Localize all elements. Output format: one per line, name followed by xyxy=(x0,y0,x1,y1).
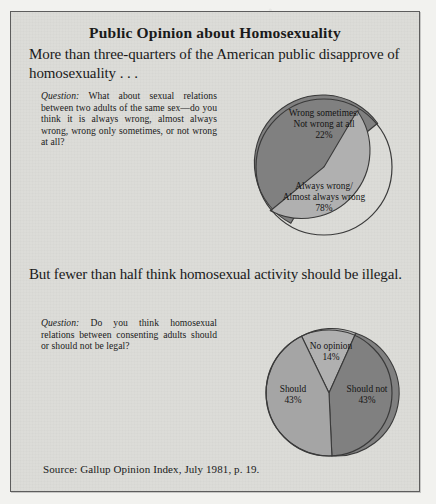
figure-inner: Public Opinion about Homosexuality More … xyxy=(11,12,419,491)
pie-label-pct: 22% xyxy=(257,130,391,141)
pie-label-no-opinion: No opinion 14% xyxy=(294,341,368,363)
lede-middle: But fewer than half think homosexual act… xyxy=(29,265,403,284)
pie-label-line2: Not wrong at all xyxy=(257,119,391,130)
source-line: Source: Gallup Opinion Index, July 1981,… xyxy=(43,463,259,475)
pie-label-line1: Wrong sometimes/ xyxy=(257,108,391,119)
pie-label-line1: Should xyxy=(263,384,323,395)
figure-frame: Public Opinion about Homosexuality More … xyxy=(10,11,420,492)
lede-top: More than three-quarters of the American… xyxy=(29,45,405,83)
figure-title: Public Opinion about Homosexuality xyxy=(11,24,419,42)
question-label-top: Question: xyxy=(41,90,79,101)
pie-label-line2: Almost always wrong xyxy=(254,192,394,203)
question-label-bottom: Question: xyxy=(41,317,79,328)
pie-label-pct: 43% xyxy=(331,395,403,406)
pie-label-pct: 14% xyxy=(294,352,368,363)
pie-label-line1: No opinion xyxy=(294,341,368,352)
pie-label-line1: Always wrong/ xyxy=(254,181,394,192)
pie-label-pct: 78% xyxy=(254,203,394,214)
pie-label-should-not: Should not 43% xyxy=(331,384,403,406)
pie-label-wrong-sometimes: Wrong sometimes/ Not wrong at all 22% xyxy=(257,108,391,142)
pie-label-always-wrong: Always wrong/ Almost always wrong 78% xyxy=(254,181,394,215)
question-block-bottom: Question: Do you think homosexual relati… xyxy=(41,317,217,352)
pie-label-line1: Should not xyxy=(331,384,403,395)
question-block-top: Question: What about sexual relations be… xyxy=(41,90,217,148)
pie-label-should: Should 43% xyxy=(263,384,323,406)
pie-label-pct: 43% xyxy=(263,395,323,406)
